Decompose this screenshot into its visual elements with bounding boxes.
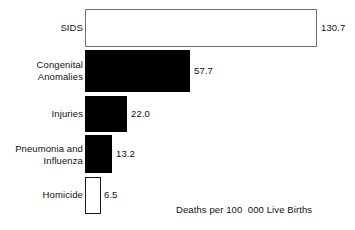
value-label-injuries: 22.0	[131, 108, 150, 119]
value-label-congenital-anomalies: 57.7	[194, 65, 213, 76]
category-label-pneumonia-and-influenza: Pneumonia and Influenza	[15, 143, 83, 166]
category-label-sids: SIDS	[60, 22, 83, 34]
bar-injuries	[85, 96, 127, 132]
bar-sids	[85, 9, 317, 47]
bar-homicide	[85, 177, 101, 214]
bar-pneumonia-and-influenza	[85, 135, 112, 173]
category-label-congenital-anomalies: Congenital Anomalies	[37, 59, 83, 82]
value-label-homicide: 6.5	[104, 189, 118, 200]
category-label-injuries: Injuries	[52, 108, 83, 120]
bar-congenital-anomalies	[85, 50, 190, 92]
category-label-homicide: Homicide	[43, 189, 83, 201]
value-label-sids: 130.7	[321, 22, 345, 33]
bar-chart: SIDS Congenital Anomalies Injuries Pneum…	[0, 0, 355, 230]
value-label-pneumonia-and-influenza: 13.2	[116, 148, 135, 159]
axis-caption: Deaths per 100 000 Live Births	[176, 204, 312, 216]
